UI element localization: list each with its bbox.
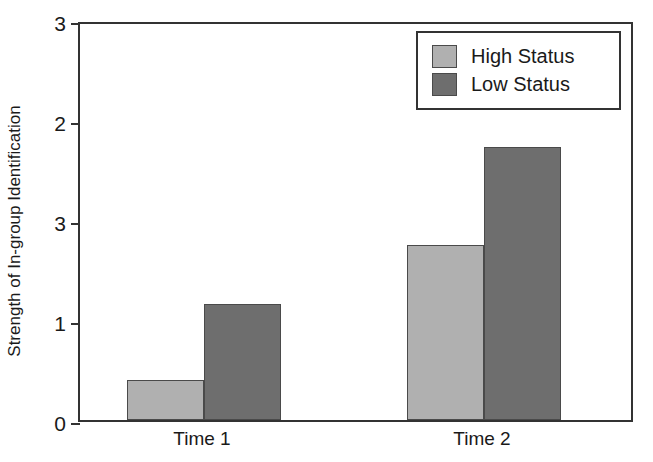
y-axis-tick-label: 1 xyxy=(54,313,71,334)
y-axis-tick-mark xyxy=(71,223,80,225)
bar-low-status-time-1 xyxy=(204,304,281,420)
chart-legend: High StatusLow Status xyxy=(416,31,621,110)
y-axis-tick-label: 3 xyxy=(54,13,71,34)
x-axis-label-time-2: Time 2 xyxy=(453,428,510,450)
y-axis-tick-label: 0 xyxy=(54,413,71,434)
y-axis-tick-mark xyxy=(71,423,80,425)
legend-swatch-icon xyxy=(432,45,457,68)
y-axis-title: Strength of In-group Identification xyxy=(0,0,30,462)
legend-item-low-status: Low Status xyxy=(432,70,605,98)
y-axis-tick-label: 2 xyxy=(54,113,71,134)
y-axis-tick-mark xyxy=(71,23,80,25)
bar-low-status-time-2 xyxy=(484,147,561,420)
legend-item-high-status: High Status xyxy=(432,42,605,70)
x-axis-label-time-1: Time 1 xyxy=(173,428,230,450)
legend-item-label: High Status xyxy=(471,46,574,66)
bar-high-status-time-2 xyxy=(407,245,484,420)
bar-chart-figure: Strength of In-group Identification 3231… xyxy=(0,0,653,462)
y-axis-tick-label: 3 xyxy=(54,213,71,234)
legend-item-label: Low Status xyxy=(471,74,570,94)
legend-swatch-icon xyxy=(432,73,457,96)
y-axis-tick-mark xyxy=(71,123,80,125)
bar-high-status-time-1 xyxy=(127,380,204,420)
y-axis-tick-mark xyxy=(71,323,80,325)
